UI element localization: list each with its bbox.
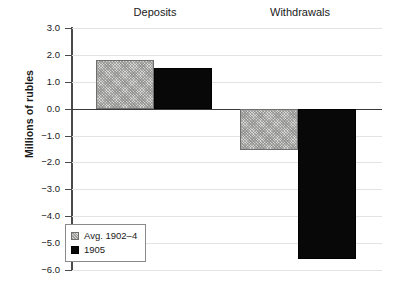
category-header-deposits: Deposits: [96, 6, 214, 18]
y-tick-label: −1.0: [26, 130, 60, 141]
y-tick-mark: [65, 109, 71, 110]
y-tick-label: −6.0: [26, 264, 60, 275]
bar-deposits-avg-1902-4: [96, 60, 154, 108]
y-tick-label: 1.0: [26, 76, 60, 87]
gridline: [72, 28, 382, 29]
solid-swatch-icon: [71, 246, 79, 254]
bar-withdrawals-1905: [298, 109, 356, 260]
y-tick-label: 0.0: [26, 103, 60, 114]
category-header-withdrawals: Withdrawals: [228, 6, 372, 18]
legend-label-1905: 1905: [84, 243, 105, 257]
gridline: [72, 270, 382, 271]
bar-deposits-1905: [154, 68, 212, 108]
y-tick-label: 3.0: [26, 22, 60, 33]
y-tick-label: −3.0: [26, 183, 60, 194]
chart-legend: Avg. 1902–4 1905: [65, 224, 146, 262]
legend-item-avg: Avg. 1902–4: [71, 229, 137, 243]
y-tick-mark: [65, 136, 71, 137]
legend-label-avg: Avg. 1902–4: [84, 229, 137, 243]
hatched-swatch-icon: [71, 232, 79, 240]
legend-item-1905: 1905: [71, 243, 137, 257]
y-tick-label: −5.0: [26, 237, 60, 248]
bar-chart: Millions of rubles Deposits Withdrawals …: [0, 0, 399, 289]
y-tick-mark: [65, 82, 71, 83]
y-tick-mark: [65, 162, 71, 163]
y-tick-label: −4.0: [26, 210, 60, 221]
y-tick-mark: [65, 55, 71, 56]
y-tick-mark: [65, 28, 71, 29]
y-tick-mark: [65, 216, 71, 217]
y-tick-mark: [65, 270, 71, 271]
bar-withdrawals-avg-1902-4: [240, 109, 298, 151]
y-tick-mark: [65, 189, 71, 190]
gridline: [72, 55, 382, 56]
y-tick-label: 2.0: [26, 49, 60, 60]
y-tick-label: −2.0: [26, 156, 60, 167]
